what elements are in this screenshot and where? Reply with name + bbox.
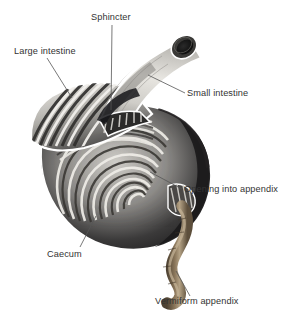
label-caecum: Caecum [47,249,82,260]
anatomical-figure: Sphincter Large intestine Small intestin… [0,0,293,328]
label-opening-into-appendix: Opening into appendix [184,184,278,195]
label-large-intestine: Large intestine [14,46,76,57]
label-vermiform-appendix: Vermiform appendix [155,296,239,307]
label-sphincter: Sphincter [91,12,131,23]
label-small-intestine: Small intestine [187,88,248,99]
